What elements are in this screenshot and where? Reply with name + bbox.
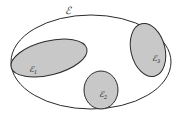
- subset-3: ℰ3: [125, 20, 171, 81]
- outer-set-label: ℰ: [65, 5, 72, 16]
- subset-2: ℰ2: [84, 71, 118, 109]
- subset-3-ellipse: [125, 20, 171, 81]
- diagram-svg: ℰ ℰ1 ℰ2 ℰ3: [0, 0, 179, 118]
- set-diagram: ℰ ℰ1 ℰ2 ℰ3: [0, 0, 179, 118]
